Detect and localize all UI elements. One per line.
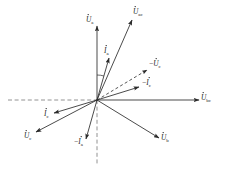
phasor-label-u-bc: Ubc: [201, 93, 212, 103]
phasor-label-neg-i-a: −Ia: [74, 137, 84, 147]
phasor-canvas: UaUacUbcUbUc−UcIa−Ia−IcIc: [0, 0, 227, 171]
phasor-vector-u-b: [97, 100, 159, 138]
phasor-label-u-ac: Uac: [133, 7, 144, 17]
phasor-label-i-a: Ia: [103, 46, 109, 56]
overdot-marker: [81, 136, 82, 137]
phasor-label-u-c: Uc: [24, 131, 32, 141]
overdot-marker: [149, 77, 150, 78]
phasor-label-u-a: Ua: [86, 15, 94, 25]
angle-arc-group: [97, 75, 104, 76]
phasor-label-i-c: Ic: [43, 109, 49, 119]
phasor-labels-group: UaUacUbcUbUc−UcIa−Ia−IcIc: [24, 6, 212, 147]
phasor-vectors-group: [36, 20, 199, 139]
phasor-vector-neg-i-a: [86, 100, 97, 139]
reference-axes-group: [8, 100, 97, 164]
phasor-label-u-b: Ub: [161, 133, 169, 143]
phase-angle-arc: [97, 75, 104, 76]
phasor-label-neg-i-c: −Ic: [142, 78, 152, 88]
phasor-diagram-figure: UaUacUbcUbUc−UcIa−Ia−IcIc: [0, 0, 227, 171]
phasor-label-neg-u-c: −Uc: [149, 59, 162, 69]
phasor-vector-neg-i-c: [97, 87, 139, 100]
phasor-vector-u-ac: [97, 20, 132, 100]
